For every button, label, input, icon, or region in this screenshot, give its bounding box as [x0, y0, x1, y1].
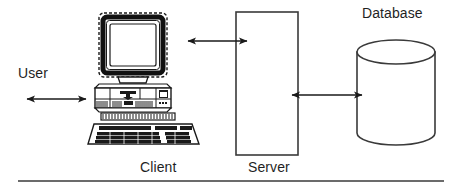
database-cylinder-top	[357, 40, 435, 64]
diagram-graphics	[0, 0, 456, 190]
front-panel-leds	[159, 102, 167, 104]
desktop-base-unit-icon	[95, 84, 171, 112]
keyboard-icon	[88, 113, 199, 144]
database-cylinder	[357, 40, 435, 145]
client-computer-illustration	[88, 13, 199, 144]
label-user: User	[18, 66, 48, 80]
drive-slot-upper	[120, 91, 136, 94]
label-server: Server	[248, 160, 290, 174]
base-unit-foot	[95, 108, 171, 112]
monitor-neck	[118, 77, 148, 83]
database-cylinder-body	[357, 52, 435, 145]
label-client: Client	[140, 160, 176, 174]
label-database: Database	[362, 6, 423, 20]
keyboard-numpad	[165, 132, 191, 143]
monitor-screen	[110, 24, 156, 66]
power-indicator-inner	[160, 92, 167, 97]
diagram-canvas: User Client Server Database	[0, 0, 456, 190]
crt-monitor-icon	[99, 13, 167, 83]
server-box	[236, 12, 298, 155]
drive-slot-lower	[124, 101, 133, 105]
keyboard-main-rows	[95, 132, 161, 143]
